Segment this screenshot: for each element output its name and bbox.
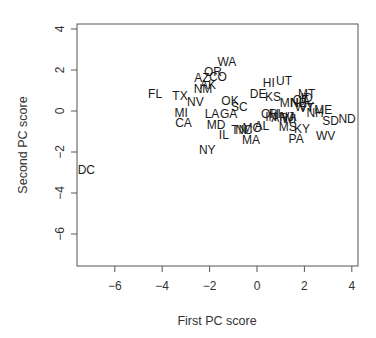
y-tick-label: 4: [53, 25, 67, 32]
x-tick-label: 2: [301, 279, 308, 293]
x-tick-label: −6: [108, 279, 122, 293]
x-axis-ticks: −6−4−2024: [108, 266, 355, 293]
x-tick-label: 4: [348, 279, 355, 293]
x-tick-label: 0: [254, 279, 261, 293]
x-tick-label: −2: [203, 279, 217, 293]
point-label: NY: [199, 143, 216, 157]
point-label: WV: [316, 129, 335, 143]
pca-scatter-chart: −6−4−2024 −6−4−2024 First PC score Secon…: [0, 0, 376, 338]
point-label: PA: [289, 132, 304, 146]
y-tick-label: −6: [53, 227, 67, 241]
point-label: UT: [276, 74, 293, 88]
point-label: TX: [172, 89, 187, 103]
point-label: DC: [78, 163, 96, 177]
y-axis-ticks: −6−4−2024: [53, 25, 77, 241]
point-label: HI: [263, 76, 275, 90]
point-label: MT: [298, 87, 316, 101]
x-axis-label: First PC score: [177, 314, 256, 328]
y-tick-label: −2: [53, 145, 67, 159]
point-label: SD: [322, 114, 339, 128]
point-label: SC: [231, 100, 248, 114]
point-label: NV: [187, 95, 204, 109]
y-tick-label: −4: [53, 186, 67, 200]
point-label: MA: [242, 133, 260, 147]
y-tick-label: 0: [53, 107, 67, 114]
point-label: IL: [219, 128, 229, 142]
data-labels: WAORAZCOAKNMFLTXNVMICALAGAMDILNYDCOKSCDE…: [78, 55, 356, 178]
point-label: FL: [148, 87, 162, 101]
point-label: ND: [338, 112, 356, 126]
y-axis-label: Second PC score: [16, 96, 30, 193]
x-tick-label: −4: [155, 279, 169, 293]
point-label: CA: [175, 116, 192, 130]
y-tick-label: 2: [53, 66, 67, 73]
